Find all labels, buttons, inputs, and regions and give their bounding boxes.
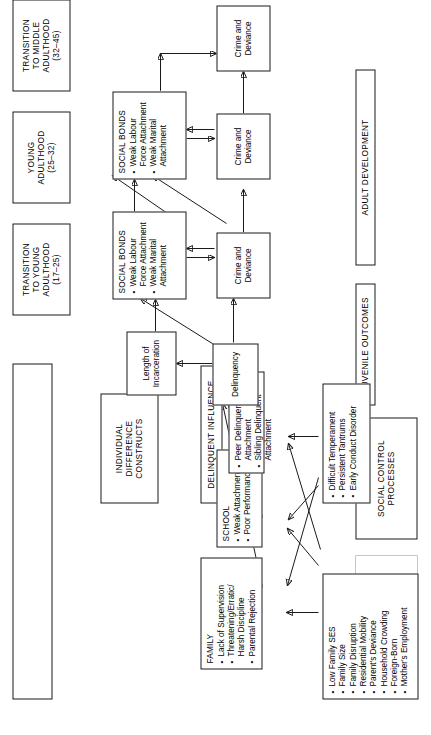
- stage-line: TRANSITION: [21, 18, 31, 71]
- construct-individual-difference[interactable]: Difficult Temperament Persistent Tantrum…: [322, 383, 370, 503]
- phase-header-individual-difference: INDIVIDUAL DIFFERENCE CONSTRUCTS: [100, 393, 158, 503]
- list-item: Weak Marital Attachment: [148, 96, 168, 173]
- stage-line: TO MIDDLE: [31, 21, 41, 69]
- list-item: Early Conduct Disorder: [348, 388, 358, 497]
- outcome-crime-deviance-1[interactable]: Crime and Deviance: [216, 232, 270, 298]
- list-item: Difficult Temperament: [327, 388, 337, 497]
- construct-social-bonds-young[interactable]: SOCIAL BONDS Weak Labour Force Attachmen…: [112, 211, 186, 299]
- stage-line: TRANSITION: [21, 242, 31, 295]
- construct-title: SOCIAL BONDS: [117, 216, 127, 293]
- stage-age: (17–25): [51, 254, 61, 285]
- list-item: Household Crowding: [379, 578, 389, 693]
- individual-difference-list: Difficult Temperament Persistent Tantrum…: [327, 388, 358, 497]
- construct-incarceration[interactable]: Length of Incarceration: [126, 331, 176, 395]
- list-item: Threatening/Erratic/ Harsh Discipline: [226, 562, 246, 663]
- header-line: DIFFERENCE: [124, 420, 134, 476]
- stage-line: ADULTHOOD: [41, 18, 51, 72]
- outcome-label: Crime and Deviance: [233, 235, 253, 295]
- header-line: INDIVIDUAL: [114, 423, 124, 472]
- stage-age: (32–45): [51, 30, 61, 61]
- construct-label: Delinquency: [230, 351, 240, 396]
- list-item: Family Size: [337, 578, 347, 693]
- family-list: Lack of Supervision Threatening/Erratic/…: [216, 562, 256, 663]
- life-stage-transition-young-adulthood: TRANSITION TO YOUNG ADULTHOOD (17–25): [12, 223, 70, 315]
- stage-line: ADULTHOOD: [41, 242, 51, 296]
- header-line: CONSTRUCTS: [134, 418, 144, 478]
- outcome-crime-deviance-3[interactable]: Crime and Deviance: [216, 5, 270, 71]
- structural-factor-list: Low Family SES Family Size Family Disrup…: [327, 578, 409, 693]
- construct-family[interactable]: FAMILY Lack of Supervision Threatening/E…: [200, 557, 262, 669]
- list-item: Weak Labour Force Attachment: [128, 216, 148, 293]
- list-item: Residential Mobility: [358, 578, 368, 693]
- list-item: Foreign-Born: [389, 578, 399, 693]
- stage-line: TO YOUNG: [31, 246, 41, 292]
- list-item: Weak Labour Force Attachment: [128, 96, 148, 173]
- stage-line: ADULTHOOD: [36, 130, 46, 184]
- list-item: Lack of Supervision: [216, 562, 226, 663]
- list-item: Weak Marital Attachment: [148, 216, 168, 293]
- stage-line: YOUNG: [26, 141, 36, 173]
- diagram-canvas: STRUCTURAL BACKGROUND FACTORS SOCIAL CON…: [0, 0, 431, 735]
- outcome-label: Crime and Deviance: [233, 8, 253, 68]
- header-line: PROCESSES: [386, 451, 396, 505]
- construct-structural-factors[interactable]: Low Family SES Family Size Family Disrup…: [322, 573, 418, 699]
- social-bonds-young-list: Weak Labour Force Attachment Weak Marita…: [128, 216, 168, 293]
- list-item: Persistent Tantrums: [337, 388, 347, 497]
- header-line: JUVENILE OUTCOMES: [360, 297, 370, 392]
- construct-label: Length of Incarceration: [141, 334, 161, 392]
- life-stage-young-adulthood: YOUNG ADULTHOOD (25–32): [12, 111, 70, 203]
- social-bonds-middle-list: Weak Labour Force Attachment Weak Marita…: [128, 96, 168, 173]
- list-item: Parental Rejection: [247, 562, 257, 663]
- outcome-crime-deviance-2[interactable]: Crime and Deviance: [216, 113, 270, 179]
- list-item: Parent's Deviance: [368, 578, 378, 693]
- stage-age: (25–32): [46, 142, 56, 173]
- header-line: SOCIAL CONTROL: [376, 440, 386, 517]
- construct-title: FAMILY: [205, 562, 215, 663]
- life-stage-strip-early: [12, 363, 52, 699]
- construct-delinquency[interactable]: Delinquency: [212, 343, 258, 405]
- construct-social-bonds-middle[interactable]: SOCIAL BONDS Weak Labour Force Attachmen…: [112, 91, 186, 179]
- outcome-label: Crime and Deviance: [233, 116, 253, 176]
- list-item: Family Disruption: [348, 578, 358, 693]
- construct-title: SOCIAL BONDS: [117, 96, 127, 173]
- header-line: ADULT DEVELOPMENT: [360, 119, 370, 215]
- life-stage-transition-middle-adulthood: TRANSITION TO MIDDLE ADULTHOOD (32–45): [12, 0, 70, 91]
- phase-header-adult-development: ADULT DEVELOPMENT: [355, 69, 375, 265]
- list-item: Mother's Employment: [399, 578, 409, 693]
- list-item: Low Family SES: [327, 578, 337, 693]
